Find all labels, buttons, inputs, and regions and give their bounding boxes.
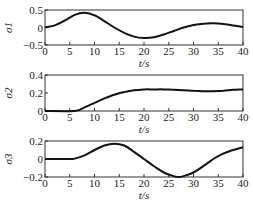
y-axis-label: σ3 xyxy=(2,153,14,164)
x-tick-label: 10 xyxy=(89,111,101,123)
x-tick-label: 35 xyxy=(213,111,225,123)
panel-1: 0510152025303540−0.500.5t/sσ1 xyxy=(2,4,249,69)
panel-3: 0510152025303540−0.200.2t/sσ3 xyxy=(2,135,249,201)
x-tick-label: 0 xyxy=(42,177,48,189)
x-tick-label: 30 xyxy=(188,111,200,123)
x-tick-label: 20 xyxy=(139,45,151,57)
x-tick-label: 40 xyxy=(238,177,250,189)
series-line xyxy=(45,13,243,38)
y-tick-label: 0 xyxy=(38,22,44,34)
y-tick-label: −0.2 xyxy=(23,171,43,183)
y-tick-label: 0.2 xyxy=(29,135,43,147)
x-tick-label: 35 xyxy=(213,177,225,189)
x-tick-label: 25 xyxy=(163,177,175,189)
x-tick-label: 0 xyxy=(42,111,48,123)
x-tick-label: 40 xyxy=(238,45,250,57)
x-tick-label: 35 xyxy=(213,45,225,57)
x-axis-label: t/s xyxy=(139,189,149,201)
y-tick-label: 0 xyxy=(38,153,44,165)
x-tick-label: 25 xyxy=(163,45,175,57)
x-axis-label: t/s xyxy=(139,57,149,69)
x-tick-label: 15 xyxy=(114,177,126,189)
y-tick-label: 0.2 xyxy=(29,87,43,99)
series-line xyxy=(45,89,243,111)
x-tick-label: 5 xyxy=(67,177,73,189)
x-tick-label: 40 xyxy=(238,111,250,123)
x-tick-label: 30 xyxy=(188,177,200,189)
y-tick-label: 0.5 xyxy=(29,4,43,16)
x-tick-label: 15 xyxy=(114,45,126,57)
y-tick-label: 0.4 xyxy=(29,69,43,81)
y-axis-label: σ2 xyxy=(2,87,14,98)
x-tick-label: 30 xyxy=(188,45,200,57)
figure: 0510152025303540−0.500.5t/sσ105101520253… xyxy=(0,0,253,211)
y-tick-label: 0 xyxy=(38,105,44,117)
x-axis-label: t/s xyxy=(139,123,149,135)
y-axis-label: σ1 xyxy=(2,22,14,33)
x-tick-label: 20 xyxy=(139,111,151,123)
x-tick-label: 5 xyxy=(67,45,73,57)
x-tick-label: 5 xyxy=(67,111,73,123)
x-tick-label: 10 xyxy=(89,177,101,189)
x-tick-label: 0 xyxy=(42,45,48,57)
plot-frame xyxy=(45,75,243,111)
y-tick-label: −0.5 xyxy=(23,39,43,51)
x-tick-label: 15 xyxy=(114,111,126,123)
panel-2: 051015202530354000.20.4t/sσ2 xyxy=(2,69,249,135)
series-line xyxy=(45,144,243,177)
x-tick-label: 25 xyxy=(163,111,175,123)
x-tick-label: 20 xyxy=(139,177,151,189)
x-tick-label: 10 xyxy=(89,45,101,57)
